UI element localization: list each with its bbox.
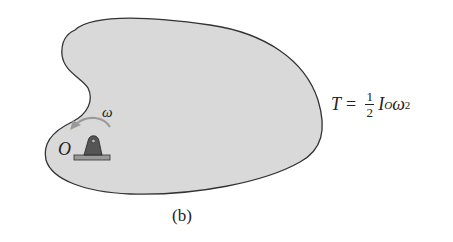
pivot-point-label: O	[58, 139, 71, 160]
equation-lhs: T	[331, 94, 341, 115]
fraction-numerator: 1	[366, 90, 373, 103]
rigid-body-shape	[0, 0, 453, 242]
equation-fraction: 1 2	[365, 90, 374, 119]
equation-omega: ω	[392, 94, 405, 115]
rigid-body-outline	[45, 18, 322, 194]
kinetic-energy-equation: T = 1 2 IOω2	[331, 90, 410, 119]
fraction-denominator: 2	[366, 106, 373, 119]
equation-equals: =	[346, 94, 356, 115]
angular-velocity-label: ω	[102, 104, 113, 121]
equation-omega-exponent: 2	[405, 99, 411, 111]
figure-caption: (b)	[172, 206, 192, 226]
rigid-body-diagram: ω O T = 1 2 IOω2 (b)	[0, 0, 453, 242]
equation-inertia-subscript: O	[384, 99, 392, 111]
